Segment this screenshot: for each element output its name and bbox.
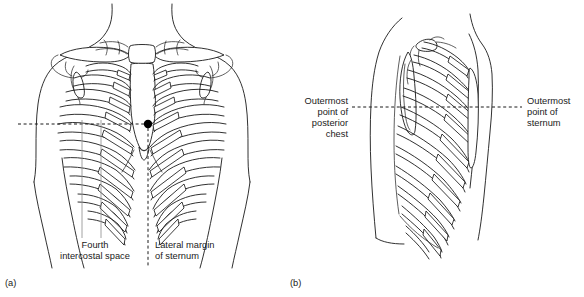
figure-canvas: Fourth intercostal space Lateral margin …: [0, 0, 584, 297]
label-line-2: point of: [318, 107, 349, 117]
label-line-3: posterior: [312, 118, 348, 128]
label-line-2: of sternum: [155, 251, 199, 261]
label-line-2: point of: [527, 107, 558, 117]
panel-caption-b: (b): [290, 278, 301, 288]
label-line-1: Outermost: [305, 96, 349, 106]
label-line-1: Fourth: [82, 240, 109, 250]
label-line-3: sternum: [527, 118, 561, 128]
label-line-1: Lateral margin: [155, 240, 214, 250]
label-line-4: chest: [326, 129, 349, 139]
intercostal-point-marker: [144, 120, 152, 128]
panel-caption-a: (a): [5, 278, 16, 288]
label-line-2: intercostal space: [60, 251, 130, 261]
anatomy-figure: Fourth intercostal space Lateral margin …: [0, 0, 584, 297]
label-line-1: Outermost: [527, 96, 571, 106]
